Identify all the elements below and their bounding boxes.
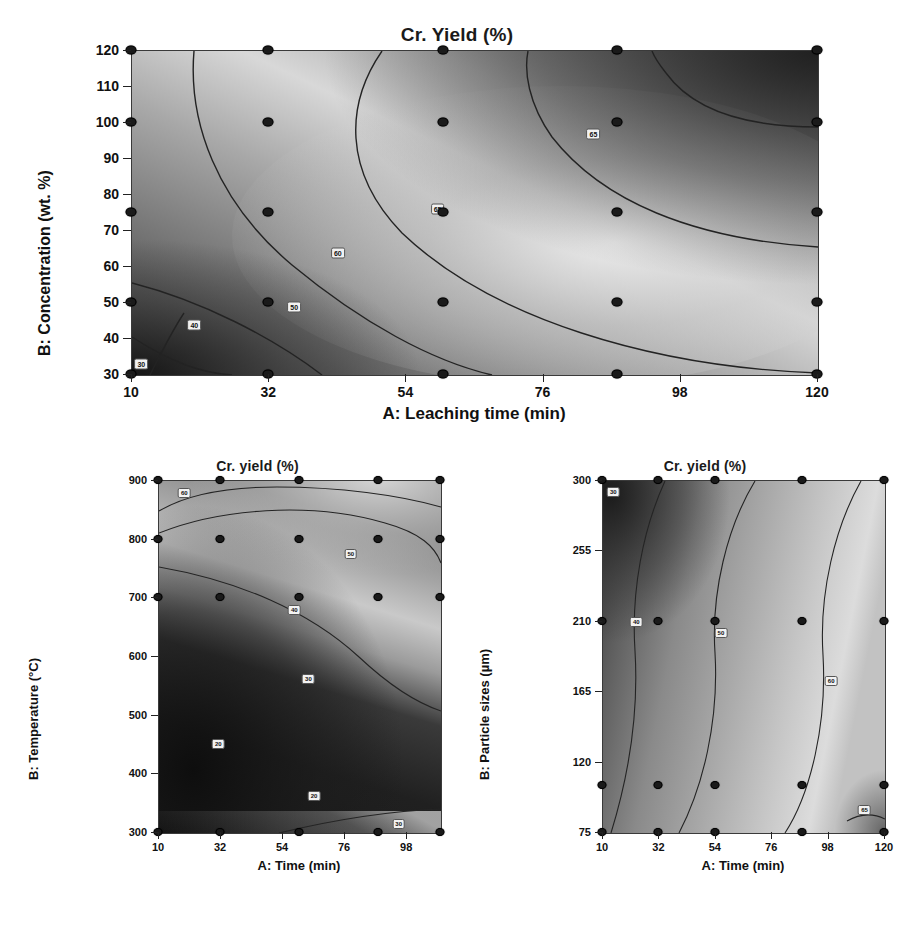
design-point — [436, 593, 445, 601]
x-tick-mark — [817, 374, 818, 382]
panel-c-x-axis-label: A: Time (min) — [602, 858, 884, 873]
x-tick-mark — [828, 832, 829, 839]
y-tick-mark — [595, 480, 602, 481]
y-tick-label: 600 — [105, 650, 147, 662]
y-tick-mark — [595, 691, 602, 692]
x-tick-mark — [282, 832, 283, 839]
x-tick-label: 32 — [214, 841, 226, 853]
design-point — [295, 476, 304, 484]
y-tick-mark — [595, 832, 602, 833]
contour-value-label: 30 — [302, 674, 315, 684]
y-tick-label: 60 — [77, 258, 119, 274]
x-tick-label: 98 — [400, 841, 412, 853]
x-tick-label: 98 — [672, 384, 688, 400]
y-tick-mark — [123, 50, 131, 51]
design-point — [216, 476, 225, 484]
y-tick-mark — [123, 122, 131, 123]
x-tick-label: 120 — [805, 384, 828, 400]
y-tick-label: 50 — [77, 294, 119, 310]
design-point — [263, 208, 274, 217]
y-tick-label: 80 — [77, 186, 119, 202]
design-point — [797, 476, 806, 484]
x-tick-mark — [268, 374, 269, 382]
design-point — [880, 617, 889, 625]
y-tick-label: 400 — [105, 767, 147, 779]
design-point — [436, 476, 445, 484]
x-tick-mark — [771, 832, 772, 839]
y-tick-mark — [595, 621, 602, 622]
contour-value-label: 40 — [288, 605, 301, 615]
x-tick-label: 32 — [652, 841, 664, 853]
y-tick-mark — [123, 230, 131, 231]
design-point — [437, 118, 448, 127]
y-tick-label: 120 — [77, 42, 119, 58]
x-tick-label: 54 — [709, 841, 721, 853]
y-tick-mark — [123, 266, 131, 267]
x-tick-mark — [406, 832, 407, 839]
contour-value-label: 60 — [825, 676, 838, 686]
design-point — [612, 118, 623, 127]
panel-b-y-axis-label: B: Temperature (°C) — [26, 658, 41, 780]
x-tick-mark — [715, 832, 716, 839]
design-point — [710, 617, 719, 625]
y-tick-mark — [123, 338, 131, 339]
design-point — [612, 208, 623, 217]
panel-a-title: Cr. Yield (%) — [0, 24, 914, 46]
y-tick-label: 75 — [549, 826, 591, 838]
x-tick-label: 54 — [398, 384, 414, 400]
contour-value-label: 50 — [715, 628, 728, 638]
design-point — [263, 118, 274, 127]
x-tick-label: 10 — [152, 841, 164, 853]
design-point — [216, 593, 225, 601]
y-tick-mark — [151, 656, 158, 657]
contour-panel-leaching-time-concentration: Cr. Yield (%) — [0, 0, 914, 440]
panel-b-title: Cr. yield (%) — [60, 458, 455, 474]
contour-value-label: 30 — [134, 359, 148, 370]
contour-value-label: 60 — [178, 488, 191, 498]
x-tick-mark — [680, 374, 681, 382]
contour-panel-time-temperature: Cr. yield (%) — [0, 450, 455, 929]
y-tick-label: 210 — [549, 615, 591, 627]
design-point — [437, 298, 448, 307]
x-tick-label: 54 — [276, 841, 288, 853]
contour-value-label: 30 — [607, 487, 620, 497]
contour-value-label: 40 — [187, 319, 201, 330]
design-point — [812, 208, 823, 217]
contour-value-label: 50 — [287, 301, 301, 312]
x-tick-label: 10 — [596, 841, 608, 853]
design-point — [880, 476, 889, 484]
y-tick-mark — [151, 715, 158, 716]
contour-value-label: 60 — [331, 247, 345, 258]
contour-value-label: 30 — [392, 819, 405, 829]
design-point — [263, 46, 274, 55]
y-tick-mark — [151, 832, 158, 833]
x-tick-mark — [344, 832, 345, 839]
y-tick-label: 800 — [105, 533, 147, 545]
y-tick-mark — [123, 158, 131, 159]
y-tick-mark — [123, 194, 131, 195]
y-tick-label: 40 — [77, 330, 119, 346]
x-tick-label: 120 — [875, 841, 893, 853]
design-point — [612, 46, 623, 55]
y-tick-label: 900 — [105, 474, 147, 486]
y-tick-mark — [151, 480, 158, 481]
x-tick-mark — [220, 832, 221, 839]
x-tick-label: 32 — [260, 384, 276, 400]
panel-c-plot-area: 3040506065 — [602, 480, 886, 834]
x-tick-mark — [602, 832, 603, 839]
panel-b-plot-area: 60504030202030 — [158, 480, 442, 834]
panel-c-y-axis-label: B: Particle sizes (µm) — [477, 649, 492, 780]
y-tick-mark — [595, 762, 602, 763]
x-tick-label: 76 — [338, 841, 350, 853]
y-tick-label: 500 — [105, 709, 147, 721]
panel-a-response-surface — [132, 51, 818, 375]
design-point — [598, 781, 607, 789]
design-point — [710, 476, 719, 484]
y-tick-label: 30 — [77, 366, 119, 382]
design-point — [373, 476, 382, 484]
panel-a-plot-area: 304050606565 — [131, 50, 819, 376]
design-point — [373, 535, 382, 543]
x-tick-label: 10 — [123, 384, 139, 400]
panel-a-y-axis-label: B: Concentration (wt. %) — [36, 170, 54, 356]
y-tick-label: 70 — [77, 222, 119, 238]
